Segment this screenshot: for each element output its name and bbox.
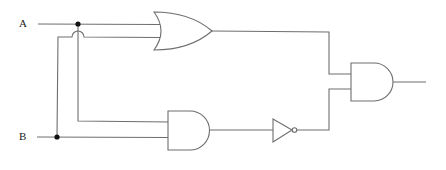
and-gate-lower	[168, 111, 210, 150]
wire-or-out	[212, 31, 351, 74]
wire-not-out	[297, 89, 351, 130]
wire-a-branch	[78, 24, 170, 122]
junction-a	[75, 21, 80, 26]
or-gate	[154, 12, 212, 50]
junction-b	[54, 134, 59, 139]
not-gate	[273, 119, 292, 142]
not-bubble	[292, 128, 297, 133]
wire-a	[38, 24, 160, 25]
and-gate-final	[351, 63, 393, 101]
logic-circuit	[0, 0, 446, 170]
